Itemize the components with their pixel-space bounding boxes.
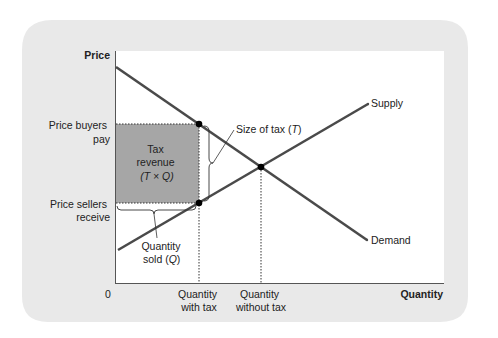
supply-end-dot	[367, 103, 369, 105]
sellers-price-point	[196, 200, 203, 207]
price-sellers-line1: Price sellers	[50, 198, 107, 210]
price-buyers-line1: Price buyers	[49, 119, 107, 131]
tax-line1: Tax	[147, 143, 164, 155]
x-axis-title: Quantity	[400, 288, 443, 300]
tax-line2: revenue	[137, 156, 175, 168]
quantity-sold-label: Quantity	[141, 240, 181, 252]
qty-without-tax-line1: Quantity	[240, 288, 280, 300]
tax-size-prefix: Size of tax (	[236, 123, 292, 135]
size-of-tax-label: Size of tax (T)	[236, 123, 301, 135]
quantity-sold-label-line2: sold (Q)	[143, 253, 180, 265]
qty-without-tax-line2: without tax	[235, 301, 287, 313]
qty-sold-line1: Quantity	[141, 240, 181, 252]
quantity-without-tax-label: Quantity without tax	[235, 288, 287, 313]
y-axis-title: Price	[84, 49, 110, 61]
qty-sold-prefix: sold (	[143, 253, 169, 265]
qty-with-tax-line2: with tax	[180, 301, 217, 313]
qty-sold-var: Q	[169, 253, 177, 265]
origin-label: 0	[105, 288, 111, 300]
equilibrium-point	[258, 164, 265, 171]
demand-end-dot	[366, 239, 368, 241]
supply-label: Supply	[371, 97, 404, 109]
demand-label: Demand	[371, 234, 411, 246]
quantity-with-tax-label: Quantity with tax	[178, 288, 220, 313]
qty-with-tax-line1: Quantity	[178, 288, 218, 300]
tax-size-suffix: )	[298, 123, 302, 135]
buyers-price-point	[196, 121, 203, 128]
tax-incidence-diagram: Price Quantity 0 Price buyers pay Price …	[0, 0, 498, 338]
tax-line3: (T × Q)	[140, 170, 174, 182]
qty-sold-suffix: )	[177, 253, 181, 265]
price-sellers-line2: receive	[76, 211, 110, 223]
price-buyers-line2: pay	[93, 133, 111, 145]
